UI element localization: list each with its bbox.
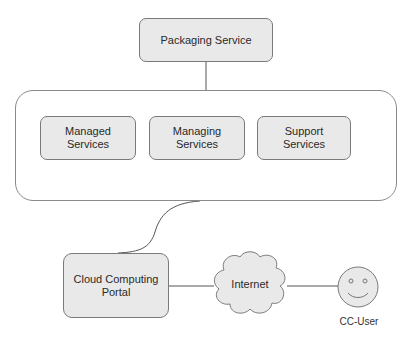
managing-services-line1: Managing xyxy=(173,125,221,138)
packaging-service-label: Packaging Service xyxy=(160,34,251,47)
support-services-line2: Services xyxy=(283,138,325,151)
cc-user-label: CC-User xyxy=(330,316,388,327)
managing-services-line2: Services xyxy=(173,138,221,151)
support-services-box: Support Services xyxy=(257,116,351,160)
internet-label: Internet xyxy=(212,278,288,290)
cloud-computing-portal-box: Cloud Computing Portal xyxy=(63,253,169,318)
smiley-face-icon xyxy=(337,266,379,308)
managed-services-line2: Services xyxy=(65,138,111,151)
container-to-portal-curve xyxy=(118,201,200,253)
managed-services-box: Managed Services xyxy=(40,116,136,160)
managed-services-line1: Managed xyxy=(65,125,111,138)
support-services-line1: Support xyxy=(283,125,325,138)
portal-line1: Cloud Computing xyxy=(74,273,159,286)
managing-services-box: Managing Services xyxy=(149,116,245,160)
packaging-service-box: Packaging Service xyxy=(139,18,273,62)
portal-line2: Portal xyxy=(74,286,159,299)
